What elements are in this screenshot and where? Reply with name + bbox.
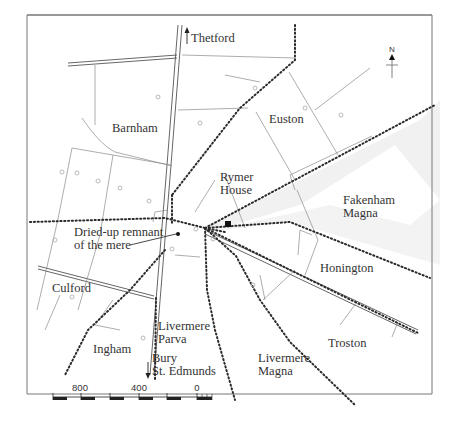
svg-text:800: 800 — [72, 382, 88, 393]
label-mere-2: of the mere — [74, 238, 131, 252]
label-bury-2: St. Edmunds — [152, 364, 216, 378]
thetford-arrow-icon — [185, 27, 190, 44]
svg-text:0: 0 — [194, 382, 199, 393]
label-ingham: Ingham — [93, 342, 131, 356]
label-livermere-magna-2: Magna — [258, 364, 293, 378]
label-honington: Honington — [320, 261, 374, 275]
label-euston: Euston — [269, 112, 304, 126]
label-barnham: Barnham — [112, 121, 158, 135]
label-bury-1: Bury — [152, 351, 178, 365]
label-fakenham-2: Magna — [343, 206, 378, 220]
label-rymer-house-2: House — [220, 183, 252, 197]
label-thetford: Thetford — [191, 31, 235, 45]
label-livermere-parva-2: Parva — [158, 332, 187, 346]
label-livermere-parva-1: Livermere — [158, 319, 211, 333]
label-mere-1: Dried-up remnant — [74, 225, 164, 239]
bury-arrow-icon — [146, 362, 151, 379]
label-rymer-house-1: Rymer — [220, 170, 254, 184]
north-arrow-icon: N — [386, 45, 398, 78]
label-fakenham-1: Fakenham — [343, 193, 395, 207]
label-livermere-magna-1: Livermere — [258, 351, 311, 365]
barnham-road — [68, 55, 177, 66]
svg-text:400: 400 — [131, 382, 147, 393]
label-culford: Culford — [52, 281, 92, 295]
scale-bar: 800 400 0 — [53, 382, 212, 400]
svg-text:N: N — [389, 45, 395, 54]
label-troston: Troston — [328, 336, 367, 350]
mere-marker-icon — [176, 232, 180, 236]
rymer-house-marker-icon — [225, 221, 231, 227]
parish-map: N Thetford Barnham Euston Rymer House Fa… — [0, 0, 454, 438]
place-labels: Thetford Barnham Euston Rymer House Fake… — [52, 31, 395, 378]
